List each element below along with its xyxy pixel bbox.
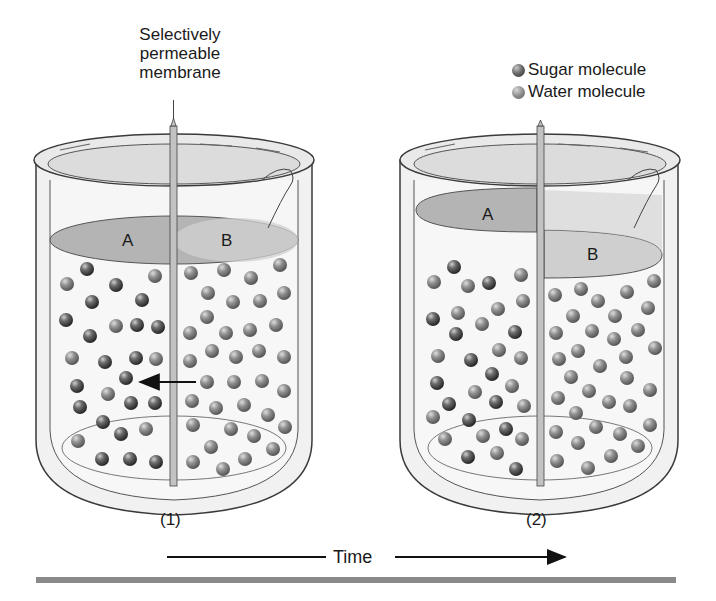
beaker-2: A B bbox=[400, 120, 680, 515]
beaker-1: A B bbox=[34, 100, 314, 515]
sugar-molecule-icon bbox=[512, 64, 525, 77]
osmosis-diagram: A B bbox=[0, 0, 716, 601]
membrane-label: Selectively permeable membrane bbox=[105, 25, 255, 82]
membrane-label-line-2: permeable bbox=[105, 44, 255, 63]
water-molecule-icon bbox=[512, 86, 525, 99]
compartment-a-label-2: A bbox=[482, 205, 494, 224]
membrane-label-line-1: Selectively bbox=[105, 25, 255, 44]
beaker-1-caption: (1) bbox=[160, 510, 181, 530]
legend-sugar-label: Sugar molecule bbox=[528, 59, 646, 81]
compartment-b-label-2: B bbox=[587, 245, 598, 264]
compartment-a-label-1: A bbox=[122, 231, 134, 250]
legend: Sugar molecule Water molecule bbox=[512, 59, 646, 103]
legend-water-label: Water molecule bbox=[528, 81, 645, 103]
compartment-b-label-1: B bbox=[221, 231, 232, 250]
time-label: Time bbox=[333, 547, 372, 568]
membrane-label-line-3: membrane bbox=[105, 63, 255, 82]
legend-row-water: Water molecule bbox=[512, 81, 646, 103]
beaker-2-caption: (2) bbox=[526, 510, 547, 530]
bottom-divider bbox=[36, 577, 676, 583]
legend-row-sugar: Sugar molecule bbox=[512, 59, 646, 81]
